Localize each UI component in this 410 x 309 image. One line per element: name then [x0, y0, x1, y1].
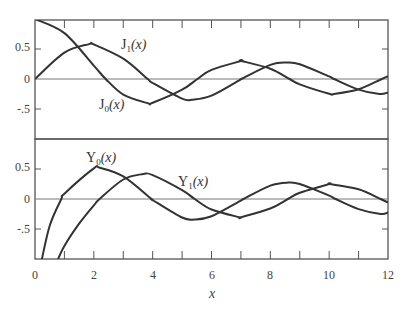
curve-y1 [57, 173, 388, 261]
curve-j1 [35, 43, 388, 101]
xtick-6: 6 [209, 268, 215, 282]
curve-y0 [41, 166, 388, 264]
top-panel: 0.5 0 -.5 J1(x) J0(x) [15, 19, 388, 139]
xtick-10: 10 [323, 268, 335, 282]
label-j1: J1(x) [121, 37, 147, 54]
xtick-12: 12 [382, 268, 394, 282]
top-ytick-0.5: 0.5 [15, 40, 30, 54]
bessel-functions-chart: 0.5 0 -.5 J1(x) J0(x) 0.5 0 -.5 Y0(x) Y1… [0, 0, 410, 309]
bottom-ytick-0: 0 [24, 192, 30, 206]
label-j0: J0(x) [99, 97, 125, 114]
xtick-4: 4 [150, 268, 156, 282]
top-ytick-neg0.5: -.5 [17, 102, 30, 116]
bottom-ytick-neg0.5: -.5 [17, 222, 30, 236]
curve-j0 [35, 19, 388, 104]
label-y0: Y0(x) [86, 150, 117, 167]
bottom-ytick-0.5: 0.5 [15, 160, 30, 174]
xtick-0: 0 [32, 268, 38, 282]
x-axis-title: x [208, 286, 216, 301]
top-ytick-0: 0 [24, 72, 30, 86]
x-axis-labels: 0 2 4 6 8 10 12 x [32, 268, 394, 301]
label-y1: Y1(x) [178, 174, 209, 191]
xtick-2: 2 [91, 268, 97, 282]
bottom-panel: 0.5 0 -.5 Y0(x) Y1(x) [15, 139, 388, 264]
xtick-8: 8 [267, 268, 273, 282]
